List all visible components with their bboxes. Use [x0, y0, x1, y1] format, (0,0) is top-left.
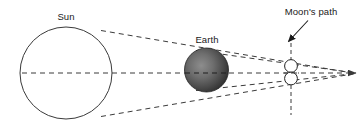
earth-body: [185, 48, 229, 92]
sun-label: Sun: [57, 11, 74, 22]
eclipse-diagram: Sun Earth Moon's path: [0, 0, 364, 132]
eclipse-diagram-canvas: Sun Earth Moon's path: [0, 0, 364, 132]
moons-path-label: Moon's path: [285, 6, 338, 17]
umbra-lower-line: [101, 74, 356, 117]
moon-upper-body: [285, 60, 298, 73]
moons-path-pointer-arrow-icon: [289, 21, 309, 42]
earth-label: Earth: [195, 34, 218, 45]
moon-lower-body: [285, 72, 298, 85]
